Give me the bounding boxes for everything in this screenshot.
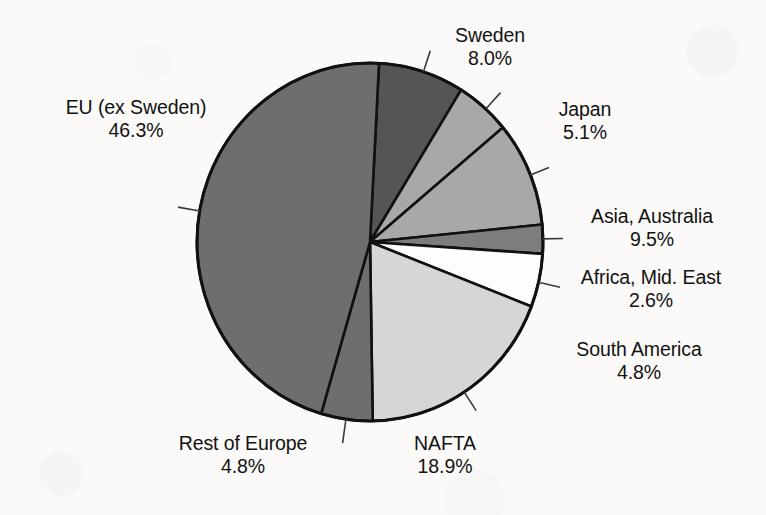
chart-page: EU (ex Sweden) 46.3% Sweden 8.0% Japan 5…	[0, 0, 766, 515]
pie-label-nafta-value: 18.9%	[375, 455, 515, 478]
pie-slices-group	[197, 63, 543, 421]
pie-label-south-america: South America 4.8%	[534, 338, 744, 384]
pie-label-sweden-value: 8.0%	[430, 47, 550, 70]
pie-label-africa-mid-east: Africa, Mid. East 2.6%	[540, 266, 762, 312]
pie-label-sweden-name: Sweden	[430, 24, 550, 47]
pie-label-asia-australia-name: Asia, Australia	[552, 205, 752, 228]
leader-line-asia-australia	[530, 167, 549, 175]
pie-label-nafta: NAFTA 18.9%	[375, 432, 515, 478]
pie-label-japan: Japan 5.1%	[530, 98, 640, 144]
pie-label-sweden: Sweden 8.0%	[430, 24, 550, 70]
pie-label-asia-australia-value: 9.5%	[552, 228, 752, 251]
pie-label-eu-value: 46.3%	[36, 119, 236, 142]
pie-label-rest-of-europe-value: 4.8%	[148, 455, 338, 478]
leader-line-japan	[486, 93, 501, 109]
leader-line-rest-of-europe	[343, 419, 346, 443]
leader-line-nafta	[464, 392, 476, 410]
pie-label-japan-name: Japan	[530, 98, 640, 121]
pie-label-africa-mid-east-name: Africa, Mid. East	[540, 266, 762, 289]
pie-label-eu: EU (ex Sweden) 46.3%	[36, 96, 236, 142]
pie-label-africa-mid-east-value: 2.6%	[540, 289, 762, 312]
pie-label-eu-name: EU (ex Sweden)	[36, 96, 236, 119]
pie-label-south-america-value: 4.8%	[534, 361, 744, 384]
pie-label-rest-of-europe: Rest of Europe 4.8%	[148, 432, 338, 478]
pie-label-south-america-name: South America	[534, 338, 744, 361]
pie-label-japan-value: 5.1%	[530, 121, 640, 144]
leader-line-eu-ex-sweden	[178, 207, 200, 211]
pie-label-rest-of-europe-name: Rest of Europe	[148, 432, 338, 455]
pie-label-nafta-name: NAFTA	[375, 432, 515, 455]
pie-label-asia-australia: Asia, Australia 9.5%	[552, 205, 752, 251]
